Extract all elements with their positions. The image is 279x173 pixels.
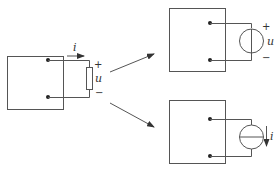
current-source-icon xyxy=(240,125,264,149)
voltage-label: u xyxy=(95,72,102,85)
network-box xyxy=(170,101,226,164)
wire-top xyxy=(210,24,252,29)
source-circuit: i + u − xyxy=(8,41,104,110)
wire-top xyxy=(48,61,90,68)
minus-sign: − xyxy=(262,52,270,63)
arrow-to-voltage-source-icon xyxy=(110,54,154,72)
wire-bottom xyxy=(210,53,252,61)
current-label: i xyxy=(73,41,77,54)
wire-bottom xyxy=(48,90,90,98)
current-label: i xyxy=(270,130,274,143)
circuit-diagram: i + u − + u − i xyxy=(0,0,279,173)
network-box xyxy=(170,9,226,72)
wire-top xyxy=(210,120,252,126)
voltage-source-circuit: + u − xyxy=(170,9,275,72)
minus-sign: − xyxy=(95,87,103,98)
resistor-icon xyxy=(87,68,93,90)
arrow-to-current-source-icon xyxy=(110,103,154,127)
plus-sign: + xyxy=(262,21,270,32)
voltage-label: u xyxy=(267,35,274,48)
voltage-source-icon xyxy=(240,29,264,53)
current-source-circuit: i xyxy=(170,101,274,164)
wire-bottom xyxy=(210,149,252,157)
network-box xyxy=(8,57,64,110)
plus-sign: + xyxy=(94,59,102,70)
